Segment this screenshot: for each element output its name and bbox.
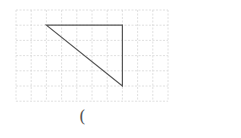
answer-parenthesis: ( (79, 108, 86, 125)
grid-figure (0, 0, 241, 138)
dotted-grid (16, 10, 168, 101)
